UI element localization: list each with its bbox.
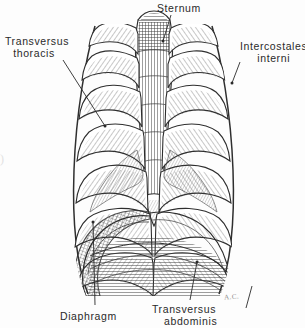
label-transversus-thoracis-line2: thoracis [5, 47, 69, 59]
transversus-abdominis-muscle [88, 237, 232, 296]
label-intercostales-interni-line2: interni [240, 52, 305, 64]
label-diaphragm: Diaphragm [60, 310, 117, 322]
label-diaphragm-line1: Diaphragm [60, 310, 117, 322]
leader-intercostales-interni [231, 62, 241, 85]
label-transversus-abdominis-line2: abdominis [152, 315, 217, 327]
label-transversus-thoracis-line1: Transversus [5, 35, 69, 47]
label-transversus-thoracis: Transversus thoracis [5, 35, 69, 59]
label-transversus-abdominis: Transversus abdominis [152, 303, 217, 327]
label-intercostales-interni-line1: Intercostales [240, 40, 305, 52]
illustration-body [63, 11, 252, 308]
artist-signature: A.C. [224, 292, 240, 301]
label-sternum: Sternum [157, 2, 201, 14]
label-intercostales-interni: Intercostales interni [240, 40, 305, 64]
leader-signature-tick [246, 286, 252, 308]
label-sternum-line1: Sternum [157, 2, 201, 14]
label-transversus-abdominis-line1: Transversus [152, 303, 217, 315]
page-edge-mark: ) [0, 152, 4, 167]
